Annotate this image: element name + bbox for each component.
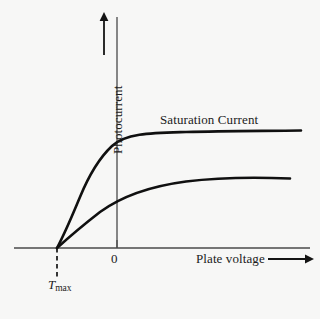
x-axis-label: Plate voltage <box>196 252 265 265</box>
chart-canvas <box>0 0 320 319</box>
tmax-annotation: Tmax <box>48 278 72 294</box>
saturation-current-annotation: Saturation Current <box>160 113 258 126</box>
tmax-subscript-text: max <box>55 283 71 293</box>
photocurrent-vs-plate-voltage-figure: Photocurrent Plate voltage 0 Saturation … <box>0 0 320 319</box>
y-axis-label: Photocurrent <box>99 62 111 154</box>
origin-tick-label: 0 <box>111 252 118 265</box>
y-axis-label-text: Photocurrent <box>111 86 124 154</box>
x-axis-arrow-icon <box>268 255 314 264</box>
saturation-current-curve <box>57 131 301 249</box>
y-axis-arrow-icon <box>100 12 109 55</box>
lower-intensity-curve <box>57 178 290 248</box>
